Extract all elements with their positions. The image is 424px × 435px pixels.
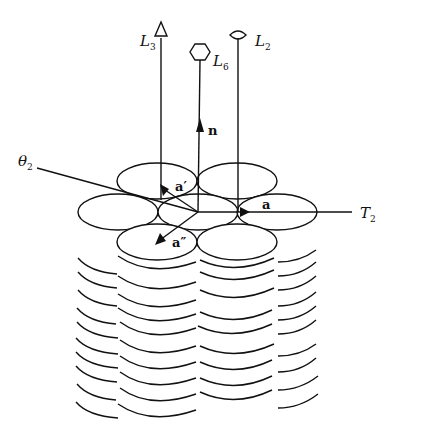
vector-a-double-prime-label: a″ [172,236,186,249]
label-theta2: θ2 [18,154,33,172]
label-l6: L6 [213,54,229,72]
vector-a-label: a [262,198,270,211]
label-l3: L3 [140,34,156,52]
triangle-icon [155,22,167,36]
lattice-diagram: L3 L6 L2 θ2 T2 n a a′ a″ [0,0,424,435]
label-l2: L2 [255,34,271,52]
vector-a-prime-label: a′ [175,180,187,193]
l6-axis-line [198,60,200,212]
n-arrowhead-icon [196,118,204,132]
column-stack-arcs [76,250,318,418]
lens-icon [230,31,246,39]
hexagon-icon [190,44,210,60]
label-t2: T2 [360,206,376,224]
vector-n-label: n [208,124,217,137]
